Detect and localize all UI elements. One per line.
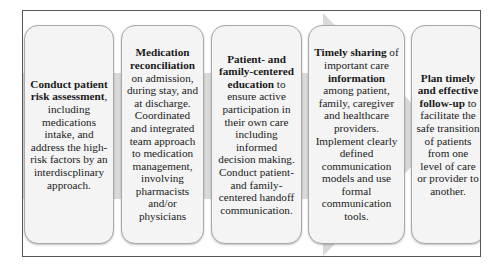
step-patient-education: Patient- and family-centered education t… <box>211 25 302 244</box>
step-risk-assessment: Conduct patient risk assessment, includi… <box>24 25 114 244</box>
step-medication-reconciliation: Medication reconciliation on admission, … <box>121 25 204 244</box>
step-text: Conduct patient risk assessment, includi… <box>29 78 109 191</box>
step-text: Timely sharing of important care informa… <box>313 46 400 222</box>
step-text: Plan timely and effective follow-up to f… <box>416 72 480 198</box>
step-text: Patient- and family-centered education t… <box>216 53 297 217</box>
step-text: Medication reconciliation on admission, … <box>126 46 199 222</box>
diagram-frame: Conduct patient risk assessment, includi… <box>22 10 481 257</box>
step-follow-up: Plan timely and effective follow-up to f… <box>411 25 481 244</box>
step-information-sharing: Timely sharing of important care informa… <box>308 25 405 244</box>
